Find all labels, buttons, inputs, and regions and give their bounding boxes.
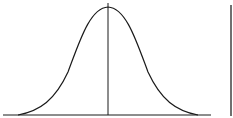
- diagram-canvas: [0, 0, 233, 118]
